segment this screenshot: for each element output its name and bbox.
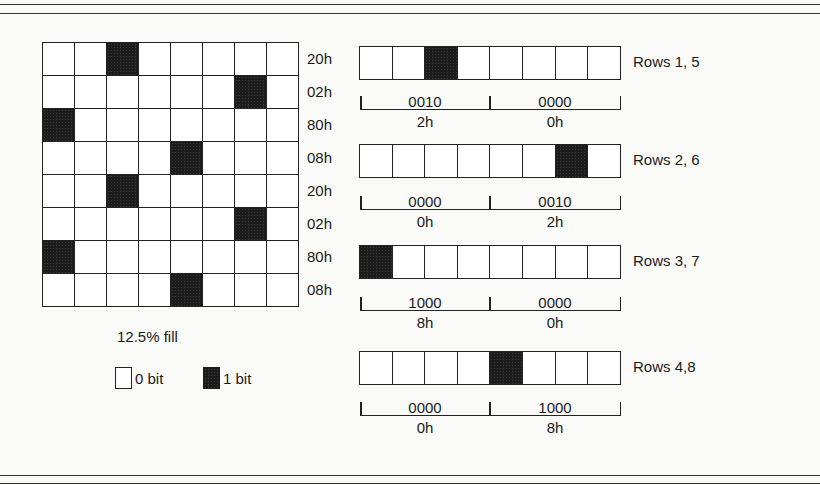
high-nibble-hex: 2h — [360, 113, 490, 130]
bit-off-cell — [139, 142, 171, 175]
grid-row — [43, 274, 299, 307]
high-nibble-binary: 0000 — [360, 399, 490, 416]
bit-off-cell — [267, 175, 299, 208]
bit-off-cell — [458, 246, 491, 279]
high-nibble-binary: 0000 — [360, 193, 490, 210]
low-nibble-binary: 0000 — [490, 294, 620, 311]
row-hex-label: 08h — [307, 149, 332, 166]
grid-row — [43, 142, 299, 175]
bit-off-cell — [523, 352, 556, 385]
bit-off-cell — [556, 352, 589, 385]
bit-off-cell — [235, 241, 267, 274]
bit-off-cell — [171, 43, 203, 76]
bit-off-cell — [523, 145, 556, 178]
high-nibble-hex: 0h — [360, 419, 490, 436]
bit-off-cell — [75, 43, 107, 76]
bit-off-cell — [203, 109, 235, 142]
rows-label: Rows 3, 7 — [633, 252, 700, 269]
bit-off-cell — [139, 43, 171, 76]
bit-off-cell — [75, 76, 107, 109]
bit-off-cell — [203, 241, 235, 274]
legend-one-bit: 1 bit — [203, 367, 251, 389]
row-hex-label: 20h — [307, 50, 332, 67]
bit-off-cell — [556, 246, 589, 279]
bottom-rule-outer — [0, 483, 820, 484]
bit-off-cell — [588, 145, 621, 178]
bit-off-cell — [267, 274, 299, 307]
bit-off-cell — [139, 175, 171, 208]
bit-off-cell — [458, 352, 491, 385]
bit-off-cell — [139, 274, 171, 307]
high-nibble-hex: 0h — [360, 213, 490, 230]
legend-zero-label: 0 bit — [135, 370, 163, 387]
bit-off-cell — [393, 246, 426, 279]
bit-off-cell — [393, 352, 426, 385]
top-rule-inner — [0, 13, 820, 14]
bit-off-cell — [203, 274, 235, 307]
bit-off-cell — [523, 246, 556, 279]
bit-on-cell — [107, 175, 139, 208]
bit-off-cell — [490, 47, 523, 80]
bit-off-cell — [360, 352, 393, 385]
bit-strip — [359, 144, 621, 178]
bit-on-cell — [235, 76, 267, 109]
bit-off-cell — [107, 241, 139, 274]
bit-off-cell — [393, 145, 426, 178]
bit-off-cell — [107, 109, 139, 142]
bit-on-cell — [556, 145, 589, 178]
bit-off-cell — [267, 43, 299, 76]
bit-off-cell — [107, 142, 139, 175]
bit-off-cell — [203, 142, 235, 175]
bit-off-cell — [75, 208, 107, 241]
bit-off-cell — [43, 175, 75, 208]
bitmap-grid — [42, 42, 299, 307]
bit-off-cell — [235, 175, 267, 208]
high-nibble-binary: 1000 — [360, 294, 490, 311]
rows-label: Rows 4,8 — [633, 358, 696, 375]
low-nibble-hex: 0h — [490, 314, 620, 331]
bottom-rule-inner — [0, 475, 820, 476]
bit-on-cell — [490, 352, 523, 385]
row-hex-label: 80h — [307, 248, 332, 265]
bit-off-cell — [107, 76, 139, 109]
bit-off-cell — [171, 175, 203, 208]
top-rule-outer — [0, 4, 820, 5]
rows-label: Rows 1, 5 — [633, 53, 700, 70]
bit-off-cell — [75, 109, 107, 142]
low-nibble-hex: 2h — [490, 213, 620, 230]
bit-off-cell — [139, 109, 171, 142]
bit-off-cell — [425, 246, 458, 279]
bit-off-cell — [171, 76, 203, 109]
bit-strip — [359, 46, 621, 80]
bit-off-cell — [523, 47, 556, 80]
grid-row — [43, 43, 299, 76]
bit-off-cell — [43, 274, 75, 307]
low-nibble-binary: 1000 — [490, 399, 620, 416]
bit-strip — [359, 245, 621, 279]
low-nibble-hex: 0h — [490, 113, 620, 130]
fill-percentage-label: 12.5% fill — [117, 328, 178, 345]
bit-off-cell — [43, 142, 75, 175]
bit-off-cell — [235, 274, 267, 307]
bit-off-cell — [267, 208, 299, 241]
bit-off-cell — [171, 109, 203, 142]
bit-on-cell — [107, 43, 139, 76]
bit-off-cell — [43, 208, 75, 241]
empty-square-icon — [115, 367, 132, 389]
rows-label: Rows 2, 6 — [633, 151, 700, 168]
bit-off-cell — [235, 142, 267, 175]
bit-off-cell — [267, 109, 299, 142]
low-nibble-hex: 8h — [490, 419, 620, 436]
bit-off-cell — [267, 142, 299, 175]
bit-off-cell — [139, 208, 171, 241]
bit-on-cell — [360, 246, 393, 279]
bit-off-cell — [425, 352, 458, 385]
bit-on-cell — [43, 109, 75, 142]
bit-off-cell — [107, 274, 139, 307]
bit-off-cell — [490, 246, 523, 279]
bit-off-cell — [425, 145, 458, 178]
bit-off-cell — [267, 241, 299, 274]
grid-row — [43, 76, 299, 109]
row-hex-label: 20h — [307, 182, 332, 199]
row-hex-label: 80h — [307, 116, 332, 133]
